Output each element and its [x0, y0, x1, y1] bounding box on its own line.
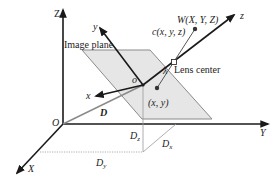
world-origin-label: O	[52, 118, 59, 128]
dy-label: Dy	[96, 158, 106, 170]
dx-label-sub: x	[169, 143, 172, 151]
camera-origin-label: o	[132, 75, 137, 85]
world-point-label: W(X, Y, Z)	[177, 15, 218, 25]
camera-point-label: c(x, y, z)	[152, 27, 185, 37]
camera-model-diagram: Z Y X O y x z o Image plane Lens center …	[0, 0, 277, 182]
image-plane-label: Image plane	[64, 40, 113, 50]
world-x-label: X	[28, 164, 34, 174]
world-point-w	[193, 27, 197, 31]
image-point-label: (x, y)	[148, 98, 169, 108]
camera-x-label: x	[86, 91, 90, 101]
dz-label-sub: z	[137, 135, 140, 143]
world-y-label: Y	[260, 128, 266, 138]
dx-label: Dx	[162, 139, 172, 151]
world-x-axis	[17, 124, 63, 173]
lambda-label: λ	[163, 66, 167, 76]
camera-z-label: z	[240, 11, 244, 21]
lens-center-label: Lens center	[174, 65, 220, 75]
displacement-label: D	[100, 108, 107, 118]
camera-y-label: y	[93, 22, 97, 32]
world-z-label: Z	[54, 9, 60, 19]
diagram-canvas	[0, 0, 277, 182]
dy-label-sub: y	[103, 162, 106, 170]
camera-origin-point	[141, 83, 144, 86]
dz-label: Dz	[130, 131, 140, 143]
image-point	[155, 86, 159, 90]
